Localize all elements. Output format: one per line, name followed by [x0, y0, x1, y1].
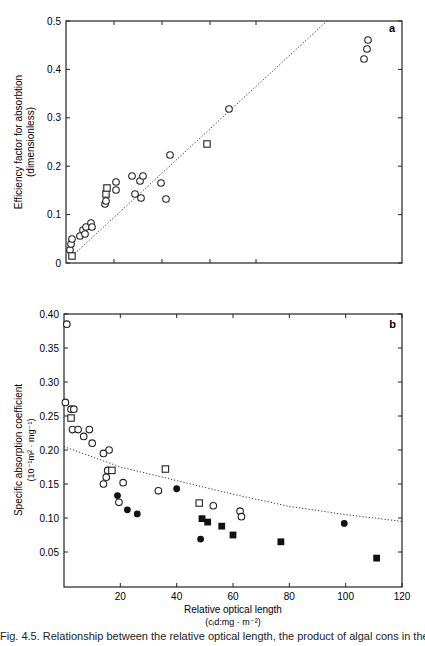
- x-tick-label: 80: [284, 591, 296, 602]
- y-tick-label: 0.10: [40, 513, 60, 524]
- y-tick-label: 0.1: [47, 209, 61, 220]
- open-circle-marker: [138, 195, 145, 202]
- open-circle-marker: [365, 37, 372, 44]
- y-tick-label: 0.4: [47, 64, 61, 75]
- open-square-marker: [204, 141, 210, 147]
- x-tick-label: 40: [171, 591, 183, 602]
- open-circle-marker: [100, 450, 107, 457]
- x-tick-label: 60: [227, 591, 239, 602]
- open-circle-marker: [364, 46, 371, 53]
- open-square-marker: [196, 500, 202, 506]
- figure: 0.50.40.30.20.10 a Efficiency factor for…: [0, 0, 425, 646]
- panel-a: 0.50.40.30.20.10 a Efficiency factor for…: [13, 16, 402, 269]
- panel-a-trend-line: [70, 20, 328, 258]
- panel-a-y-axis-label: Efficiency factor for absorbtion (dimens…: [13, 75, 36, 209]
- open-circle-marker: [82, 231, 89, 238]
- open-circle-marker: [116, 499, 123, 506]
- open-circle-marker: [100, 481, 107, 488]
- open-square-marker: [69, 253, 75, 259]
- open-circle-marker: [163, 196, 170, 203]
- panel-b-xlabel-line2: (cᵢd:mg · m⁻²): [205, 617, 260, 627]
- panel-b-y-ticks: 0.400.350.300.250.200.150.100.05: [40, 309, 402, 558]
- open-circle-marker: [103, 474, 110, 481]
- panel-b-x-ticks: 20406080100120: [115, 314, 411, 602]
- filled-circle-marker: [173, 485, 180, 492]
- panel-b-y-axis-label: Specific absorption coefficient (10⁻¹m² …: [13, 384, 36, 516]
- open-circle-marker: [103, 198, 110, 205]
- open-circle-marker: [64, 321, 71, 328]
- panel-b: 0.400.350.300.250.200.150.100.05 2040608…: [13, 309, 411, 628]
- panel-b-ylabel-line2: (10⁻¹m² · mg⁻¹): [26, 419, 36, 482]
- panel-a-frame: [66, 21, 402, 263]
- open-circle-marker: [129, 173, 136, 180]
- panel-b-xlabel-line1: Relative optical length: [184, 604, 282, 615]
- panel-a-ylabel-line2: (dimensionless): [25, 107, 36, 177]
- open-circle-marker: [86, 426, 93, 433]
- y-tick-label: 0.30: [40, 377, 60, 388]
- panel-a-y-ticks: 0.50.40.30.20.10: [47, 16, 402, 269]
- open-circle-marker: [210, 502, 217, 509]
- open-circle-marker: [113, 179, 120, 186]
- open-circle-marker: [158, 180, 165, 187]
- filled-square-marker: [373, 555, 380, 562]
- panel-b-ylabel-line1: Specific absorption coefficient: [13, 384, 24, 516]
- filled-circle-marker: [124, 506, 131, 513]
- y-tick-label: 0.2: [47, 161, 61, 172]
- x-tick-label: 100: [337, 591, 354, 602]
- y-tick-label: 0.05: [40, 547, 60, 558]
- filled-circle-marker: [134, 511, 141, 518]
- y-tick-label: 0.3: [47, 112, 61, 123]
- filled-circle-marker: [341, 520, 348, 527]
- y-tick-label: 0.40: [40, 309, 60, 320]
- x-tick-label: 20: [115, 591, 127, 602]
- y-tick-label: 0.15: [40, 479, 60, 490]
- filled-square-marker: [230, 532, 237, 539]
- filled-circle-marker: [197, 536, 204, 543]
- filled-square-marker: [204, 519, 211, 526]
- open-circle-marker: [132, 191, 139, 198]
- open-circle-marker: [167, 152, 174, 159]
- panel-b-frame: [64, 314, 402, 587]
- open-circle-marker: [69, 236, 76, 243]
- panel-a-ylabel-line1: Efficiency factor for absorbtion: [13, 75, 24, 209]
- open-circle-marker: [140, 173, 147, 180]
- open-square-marker: [103, 191, 109, 197]
- panel-a-label: a: [389, 22, 396, 34]
- panel-b-trend-line: [64, 447, 402, 522]
- y-tick-label: 0.20: [40, 445, 60, 456]
- open-circle-marker: [75, 426, 82, 433]
- y-tick-label: 0.5: [47, 16, 61, 27]
- x-tick-label: 120: [394, 591, 411, 602]
- open-circle-marker: [238, 513, 245, 520]
- open-circle-marker: [80, 433, 87, 440]
- open-circle-marker: [89, 224, 96, 231]
- y-tick-label: 0.35: [40, 343, 60, 354]
- open-circle-marker: [155, 488, 162, 495]
- open-circle-marker: [71, 406, 78, 413]
- panel-b-label: b: [389, 318, 396, 330]
- filled-circle-marker: [114, 492, 121, 499]
- open-square-marker: [162, 466, 168, 472]
- figure-caption: Fig. 4.5. Relationship between the relat…: [0, 630, 425, 642]
- filled-square-marker: [277, 538, 284, 545]
- open-square-marker: [68, 415, 74, 421]
- open-circle-marker: [120, 479, 127, 486]
- open-circle-marker: [62, 399, 69, 406]
- panel-a-data-points: [67, 37, 372, 260]
- open-square-marker: [109, 467, 115, 473]
- panel-a-x-ticks: [114, 21, 256, 263]
- open-square-marker: [104, 185, 110, 191]
- filled-square-marker: [218, 523, 225, 530]
- y-tick-label: 0.25: [40, 411, 60, 422]
- open-circle-marker: [89, 440, 96, 447]
- open-circle-marker: [113, 187, 120, 194]
- open-circle-marker: [226, 106, 233, 113]
- open-circle-marker: [361, 56, 368, 63]
- y-tick-label: 0: [55, 258, 61, 269]
- panel-b-data-points: [62, 321, 380, 562]
